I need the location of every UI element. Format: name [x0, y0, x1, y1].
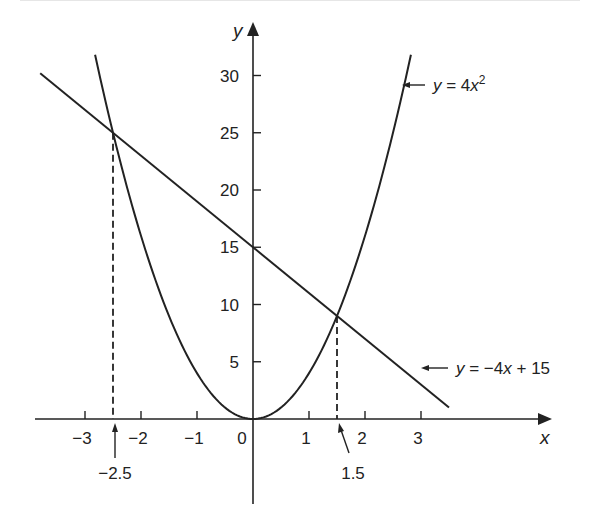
eq-coef: = −4	[465, 359, 504, 378]
x-tick-label: 3	[413, 429, 422, 448]
x-tick-label: 2	[357, 429, 366, 448]
x-tick-label: 1	[301, 429, 310, 448]
root-left-annotation: −2.5	[98, 423, 132, 483]
y-axis-label: y	[231, 20, 244, 41]
parabola-equation: y = 4x2	[432, 73, 486, 95]
y-tick-label: 20	[220, 181, 239, 200]
root-left-label: −2.5	[98, 464, 132, 483]
y-ticks	[253, 76, 261, 362]
y-tick-label: 15	[220, 238, 239, 257]
eq-coef: = 4	[442, 76, 471, 95]
y-tick-label: 10	[220, 296, 239, 315]
eq-exponent: 2	[479, 73, 486, 87]
x-tick-label: −3	[72, 429, 91, 448]
axes	[35, 34, 540, 504]
x-axis-label: x	[539, 427, 551, 448]
parabola-annotation: y = 4x2	[402, 73, 486, 95]
intersection-dropdown-lines	[113, 133, 337, 419]
y-tick-label: 30	[220, 67, 239, 86]
line-equation: y = −4x + 15	[455, 359, 550, 378]
x-tick-label: −2	[128, 429, 147, 448]
y-tick-label: 5	[230, 353, 239, 372]
chart: −3−2−10123 51015202530 x y y = 4x2 y = −…	[0, 0, 603, 525]
line-annotation: y = −4x + 15	[421, 359, 550, 378]
straight-line	[40, 73, 449, 407]
arrow-diagonal-icon	[341, 430, 349, 453]
arrowhead-icon	[112, 423, 118, 432]
x-tick-labels: −3−2−10123	[72, 429, 422, 448]
y-axis-arrowhead-icon	[247, 22, 259, 36]
x-tick-label: 0	[237, 429, 246, 448]
arrowhead-icon	[338, 423, 344, 433]
root-right-label: 1.5	[341, 464, 365, 483]
arrowhead-icon	[421, 365, 429, 371]
x-tick-label: −1	[184, 429, 203, 448]
eq-var-x: x	[469, 76, 479, 95]
eq-constant: + 15	[512, 359, 550, 378]
x-axis-arrowhead-icon	[538, 413, 552, 425]
y-tick-label: 25	[220, 124, 239, 143]
y-tick-labels: 51015202530	[220, 67, 239, 372]
eq-var-x: x	[502, 359, 512, 378]
